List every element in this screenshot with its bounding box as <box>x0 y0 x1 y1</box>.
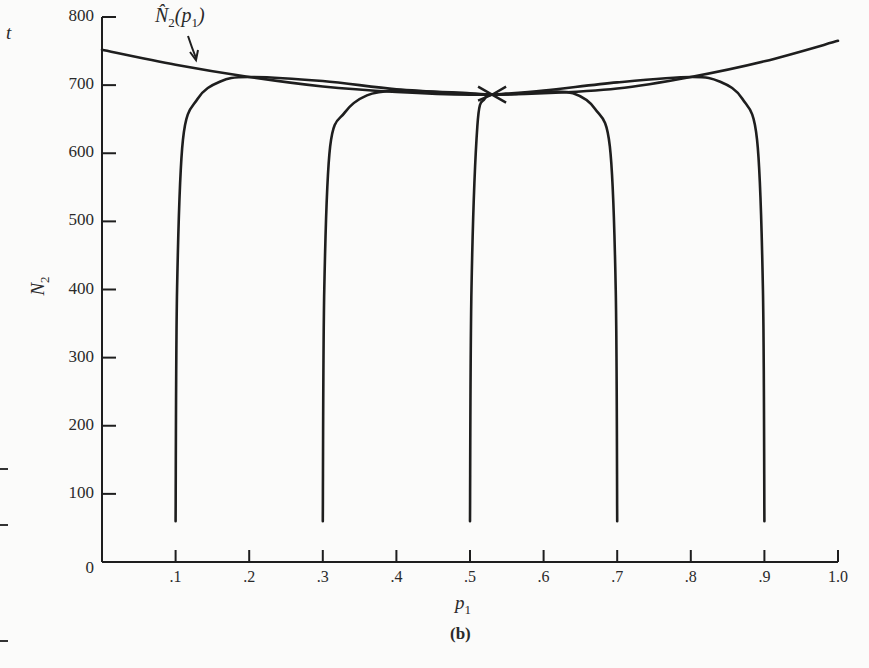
curve-annotation: N̂2(p1) <box>155 4 205 27</box>
panel-label: (b) <box>450 624 471 644</box>
x-tick-label: .2 <box>229 568 269 586</box>
x-tick-label: .5 <box>450 568 490 586</box>
x-axis-label-sub: 1 <box>465 602 472 617</box>
x-tick-label: .1 <box>156 568 196 586</box>
x-tick-label: 1.0 <box>818 568 858 586</box>
x-tick-label: .6 <box>524 568 564 586</box>
x-tick-label: .4 <box>376 568 416 586</box>
trajectory-curve <box>470 95 492 521</box>
annotation-main: N̂ <box>155 4 168 26</box>
y-tick-label: 200 <box>44 415 94 435</box>
x-axis-label: p1 <box>455 592 471 614</box>
x-tick-label: .3 <box>303 568 343 586</box>
annotation-arg-sub: 1 <box>192 15 199 30</box>
x-axis-label-main: p <box>455 592 465 613</box>
margin-rule <box>0 468 8 470</box>
trajectory-curve <box>492 92 617 522</box>
y-tick-label: 700 <box>44 74 94 94</box>
margin-rule <box>0 640 8 642</box>
chart-plot-area <box>0 0 869 668</box>
trajectory-curve <box>323 90 492 521</box>
x-tick-label: .8 <box>671 568 711 586</box>
annotation-arg-open: (p <box>175 4 192 26</box>
x-tick-label: .7 <box>597 568 637 586</box>
y-tick-label: 400 <box>44 279 94 299</box>
y-tick-label: 100 <box>44 483 94 503</box>
x-tick-label: .9 <box>744 568 784 586</box>
y-tick-label: 300 <box>44 347 94 367</box>
y-tick-label: 600 <box>44 142 94 162</box>
annotation-arg-close: ) <box>198 4 205 26</box>
trajectory-curve <box>492 77 764 521</box>
trajectory-curve <box>176 77 492 521</box>
y-tick-label: 0 <box>44 558 94 578</box>
annotation-sub: 2 <box>168 15 175 30</box>
margin-rule <box>0 524 8 526</box>
margin-letter: t <box>6 22 11 44</box>
y-tick-label: 500 <box>44 210 94 230</box>
y-tick-label: 800 <box>44 6 94 26</box>
